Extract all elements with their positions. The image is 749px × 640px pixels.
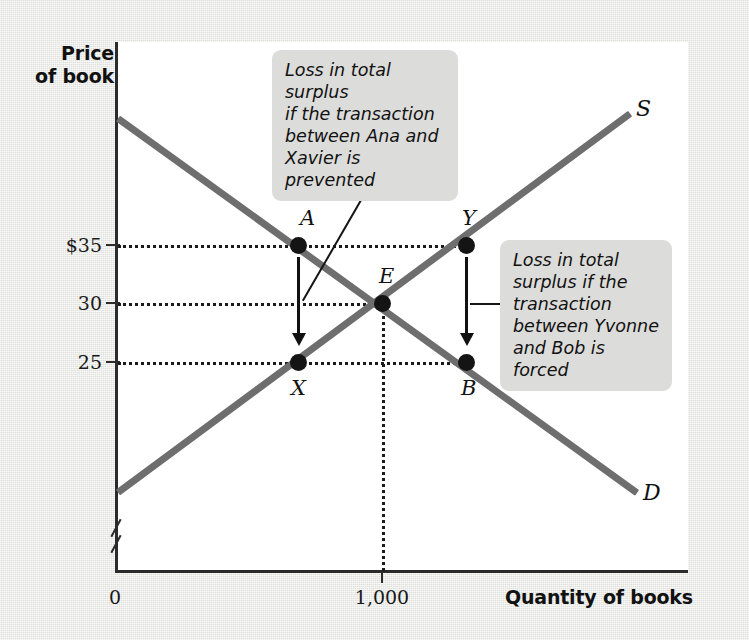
supply-demand-figure: Price of book Quantity of books $35 30 2…	[0, 0, 749, 640]
callout-right-line-5: and Bob is forced	[513, 337, 659, 381]
callout-right-line-2: surplus if the	[513, 271, 659, 293]
point-y-label: Y	[462, 206, 476, 230]
arrow-y-to-b-head	[460, 333, 474, 346]
point-b-label: B	[461, 376, 476, 400]
x-tick-mark-1000	[381, 570, 383, 583]
point-b-marker	[458, 354, 475, 371]
y-axis-title: Price of book	[22, 42, 114, 88]
x-tick-label-1000: 1,000	[342, 586, 422, 608]
callout-loss-ana-xavier: Loss in total surplus if the transaction…	[272, 50, 458, 201]
point-e-marker	[374, 295, 391, 312]
guide-line-quantity-1000	[382, 303, 385, 571]
x-tick-label-0: 0	[75, 586, 155, 608]
point-x-label: X	[291, 376, 306, 400]
arrow-a-to-x-head	[292, 333, 306, 346]
supply-curve-label: S	[636, 96, 651, 121]
y-axis-title-line-1: Price	[22, 42, 114, 65]
arrow-y-to-b-shaft	[465, 257, 468, 335]
point-a-marker	[290, 237, 307, 254]
guide-line-price-30	[118, 303, 384, 306]
x-axis-line	[115, 570, 688, 573]
demand-curve-label: D	[643, 480, 661, 505]
arrow-a-to-x-shaft	[297, 257, 300, 335]
y-tick-label-35: $35	[20, 234, 102, 256]
callout-right-line-3: transaction	[513, 293, 659, 315]
callout-right-line-4: between Yvonne	[513, 315, 659, 337]
callout-left-line-1: Loss in total surplus	[285, 59, 445, 103]
callout-right-leader-line	[470, 303, 502, 305]
y-axis-title-line-2: of book	[22, 65, 114, 88]
callout-loss-yvonne-bob: Loss in total surplus if the transaction…	[500, 240, 672, 391]
x-axis-title: Quantity of books	[505, 586, 693, 608]
point-y-marker	[458, 237, 475, 254]
y-tick-label-25: 25	[20, 351, 102, 373]
point-x-marker	[290, 354, 307, 371]
callout-right-line-1: Loss in total	[513, 249, 659, 271]
callout-left-line-2: if the transaction	[285, 103, 445, 125]
callout-left-line-4: Xavier is prevented	[285, 147, 445, 191]
y-tick-label-30: 30	[20, 292, 102, 314]
point-a-label: A	[300, 206, 315, 230]
point-e-label: E	[379, 264, 394, 288]
callout-left-line-3: between Ana and	[285, 125, 445, 147]
